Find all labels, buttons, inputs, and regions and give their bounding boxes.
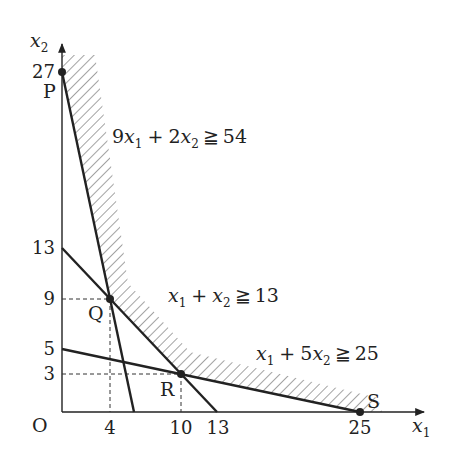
feasible-region-diagram: x2 x1 O 27 13 9 5 3 4 10 13 25 P Q R S 9… bbox=[0, 0, 462, 458]
x-tick-25: 25 bbox=[349, 417, 372, 438]
point-R-dot bbox=[177, 370, 185, 378]
constraint-label-2: x1+x2≧13 bbox=[168, 284, 279, 310]
point-Q-label: Q bbox=[88, 302, 104, 324]
x-tick-10: 10 bbox=[170, 417, 193, 438]
x-axis-label: x1 bbox=[412, 414, 430, 440]
point-S-dot bbox=[356, 408, 364, 416]
origin-label: O bbox=[32, 414, 48, 436]
y-axis-label: x2 bbox=[30, 29, 48, 55]
x-tick-4: 4 bbox=[104, 417, 115, 438]
point-P-label: P bbox=[43, 80, 56, 102]
y-tick-5: 5 bbox=[44, 338, 55, 359]
point-P-dot bbox=[58, 68, 66, 76]
constraint-label-1: 9x1+2x2≧54 bbox=[112, 125, 247, 151]
y-tick-13: 13 bbox=[32, 237, 55, 258]
constraint-label-3: x1+5x2≧25 bbox=[256, 342, 379, 368]
point-S-label: S bbox=[367, 390, 380, 412]
y-tick-27: 27 bbox=[32, 61, 55, 82]
point-Q-dot bbox=[106, 295, 114, 303]
point-R-label: R bbox=[160, 378, 175, 400]
x-tick-13: 13 bbox=[207, 417, 230, 438]
constraint-line-x1-x2-13 bbox=[62, 248, 217, 412]
y-tick-9: 9 bbox=[44, 288, 55, 309]
y-tick-3: 3 bbox=[44, 363, 55, 384]
